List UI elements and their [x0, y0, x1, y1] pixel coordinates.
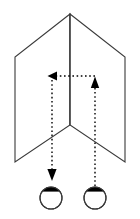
- hinged-panel-group: [15, 14, 125, 162]
- eye-right: [82, 186, 108, 209]
- diagram-canvas: [0, 0, 140, 219]
- arrowhead-down-icon: [47, 169, 56, 181]
- eye-left: [38, 186, 64, 209]
- left-panel: [15, 14, 70, 162]
- ray-diagram: [0, 0, 140, 219]
